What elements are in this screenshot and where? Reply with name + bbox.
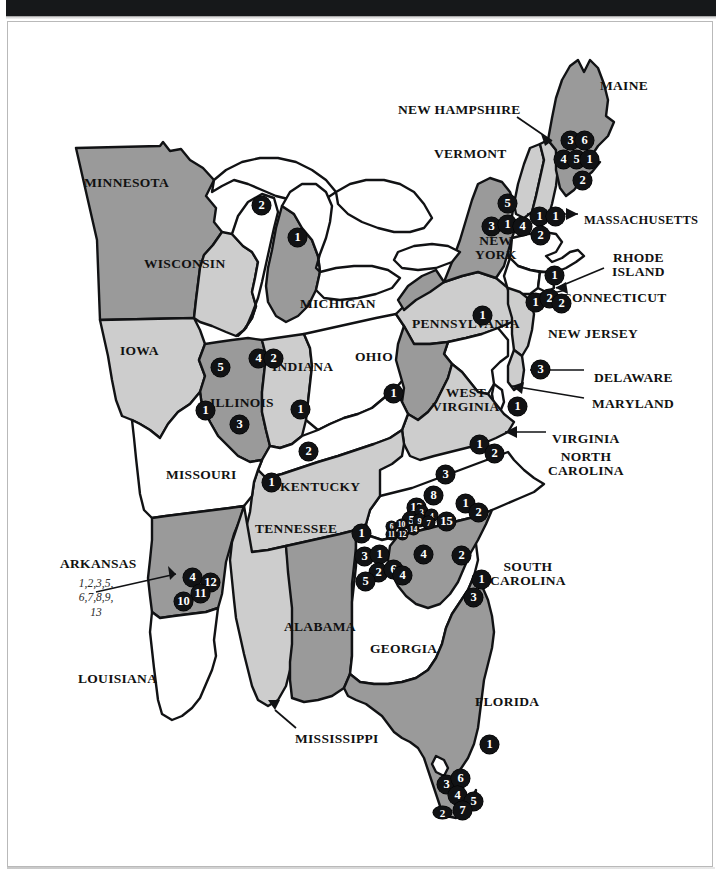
marker-indiana-2[interactable]: 2 (264, 349, 283, 368)
marker-label: 11 (195, 586, 207, 601)
marker-florida-6[interactable]: 6 (451, 769, 470, 788)
state-label-line: VERMONT (434, 147, 507, 161)
marker-florida-1[interactable]: 1 (480, 735, 499, 754)
state-label-line: CAROLINA (490, 574, 566, 588)
state-label-line: MASSACHUSETTS (584, 214, 698, 227)
state-label-line: MICHIGAN (300, 297, 376, 311)
state-label-line: LOUISIANA (78, 672, 157, 686)
state-label-kentucky: KENTUCKY (280, 480, 360, 494)
state-label-south-carolina: SOUTHCAROLINA (490, 560, 566, 588)
marker-westvirginia-3[interactable]: 3 (436, 465, 455, 484)
state-label-line: MISSOURI (166, 468, 237, 482)
marker-label: 3 (442, 467, 448, 482)
state-label-line: DELAWARE (594, 371, 673, 385)
marker-illinois-3[interactable]: 3 (230, 415, 249, 434)
marker-newyork-4[interactable]: 4 (513, 217, 532, 236)
marker-label: 1 (552, 209, 558, 224)
marker-georgia-2[interactable]: 2 (452, 546, 471, 565)
marker-label: 15 (440, 514, 453, 529)
marker-wisconsin-2[interactable]: 2 (252, 196, 271, 215)
marker-label: 1 (462, 496, 468, 511)
marker-massachusetts-1[interactable]: 1 (545, 266, 564, 285)
marker-kentucky-1[interactable]: 1 (262, 473, 281, 492)
marker-label: 7 (426, 518, 430, 528)
state-label-line: YORK (475, 248, 517, 262)
marker-label: 12 (399, 530, 407, 539)
state-label-line: WISCONSIN (144, 257, 225, 271)
marker-sc-3[interactable]: 3 (464, 588, 483, 607)
marker-indiana-2b[interactable]: 2 (299, 442, 318, 461)
state-label-ohio: OHIO (355, 350, 393, 364)
state-label-delaware: DELAWARE (594, 371, 673, 385)
state-label-arkansas: ARKANSAS (60, 557, 137, 571)
marker-illinois-5[interactable]: 5 (211, 358, 230, 377)
marker-arkansas-10[interactable]: 10 (174, 592, 193, 611)
state-label-maine: MAINE (600, 79, 648, 93)
marker-arkansas-11[interactable]: 11 (191, 584, 210, 603)
upper-peninsula (336, 180, 432, 232)
state-label-michigan: MICHIGAN (300, 297, 376, 311)
marker-georgia-4[interactable]: 4 (393, 566, 412, 585)
marker-label: 6 (457, 771, 463, 786)
state-label-line: MISSISSIPPI (295, 732, 379, 746)
marker-maryland-1[interactable]: 1 (508, 397, 527, 416)
marker-label: 1 (376, 547, 382, 562)
state-label-line: WEST (432, 386, 500, 400)
marker-label: 6 (581, 133, 587, 148)
marker-label: 1 (268, 475, 274, 490)
marker-indiana-1[interactable]: 1 (291, 400, 310, 419)
marker-maine-6[interactable]: 6 (575, 131, 594, 150)
marker-sc-1[interactable]: 1 (472, 570, 491, 589)
marker-label: 2 (258, 198, 264, 213)
marker-newhampshire-1[interactable]: 1 (546, 207, 565, 226)
map-canvas[interactable] (0, 0, 722, 894)
pointer-mississippi (275, 710, 296, 728)
state-label-massachusetts: MASSACHUSETTS (584, 214, 698, 227)
marker-tennessee-1[interactable]: 1 (352, 524, 371, 543)
marker-label: 1 (294, 230, 300, 245)
marker-nc-8[interactable]: 8 (424, 486, 443, 505)
marker-label: 11 (388, 530, 395, 539)
marker-nc-14sm[interactable]: 14 (408, 524, 419, 535)
marker-rhodeisland-2[interactable]: 2 (552, 294, 571, 313)
state-label-line: CONNECTICUT (562, 291, 667, 305)
marker-vermont-2[interactable]: 2 (531, 226, 550, 245)
marker-illinois-1[interactable]: 1 (196, 401, 215, 420)
marker-ohio-1[interactable]: 1 (384, 384, 403, 403)
marker-nc-7sm[interactable]: 7 (422, 516, 435, 529)
state-label-line: GEORGIA (370, 642, 437, 656)
marker-michigan-1[interactable]: 1 (288, 228, 307, 247)
marker-label: 1 (202, 403, 208, 418)
marker-nc-11sm[interactable]: 11 (386, 529, 397, 540)
state-label-missouri: MISSOURI (166, 468, 237, 482)
marker-tennessee-5[interactable]: 5 (356, 572, 375, 591)
marker-label: 5 (217, 360, 223, 375)
marker-label: 1 (479, 308, 485, 323)
state-label-rhode-island: RHODEISLAND (612, 251, 665, 279)
marker-florida-7[interactable]: 7 (453, 801, 472, 820)
marker-label: 3 (361, 549, 367, 564)
marker-georgia-4b[interactable]: 4 (414, 545, 433, 564)
state-label-line: CAROLINA (548, 464, 624, 478)
marker-newyork-5[interactable]: 5 (498, 194, 517, 213)
marker-maine-2[interactable]: 2 (573, 171, 592, 190)
marker-nc-12sm[interactable]: 12 (397, 529, 408, 540)
marker-tennessee-1b[interactable]: 1 (370, 545, 389, 564)
marker-maine-1[interactable]: 1 (580, 150, 599, 169)
state-label-new-york: NEWYORK (475, 234, 517, 262)
marker-label: 2 (537, 228, 543, 243)
marker-label: 2 (579, 173, 585, 188)
state-label-line: MINNESOTA (84, 176, 169, 190)
marker-label: 3 (537, 362, 543, 377)
marker-nc-15[interactable]: 15 (437, 512, 456, 531)
callout-line: 1,2,3,5, (57, 576, 135, 590)
marker-keys-2[interactable]: 2 (433, 806, 452, 819)
marker-label: 4 (189, 570, 195, 585)
marker-newjersey-3[interactable]: 3 (531, 360, 550, 379)
marker-label: 3 (488, 219, 494, 234)
marker-label: 1 (504, 217, 510, 232)
marker-virginia-2[interactable]: 2 (485, 444, 504, 463)
marker-label: 9 (417, 516, 421, 526)
marker-pennsylvania-1[interactable]: 1 (473, 306, 492, 325)
marker-nc-2[interactable]: 2 (469, 503, 488, 522)
